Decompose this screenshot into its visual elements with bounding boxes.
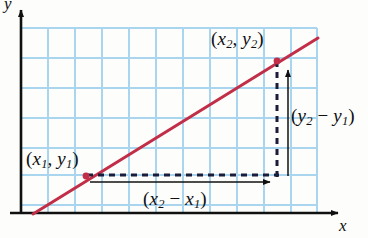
- x-var: x: [33, 148, 42, 169]
- label-rise-y2-minus-y1: (y2 − y1): [291, 105, 355, 129]
- label-point-x1-y1: (x1, y1): [26, 148, 79, 172]
- x-axis-label: x: [339, 216, 347, 236]
- paren-close: ): [200, 188, 207, 209]
- y-axis-label: y: [4, 0, 12, 14]
- comma: ,: [47, 148, 57, 169]
- paren-close: ): [72, 148, 79, 169]
- minus-operator: −: [312, 105, 333, 126]
- measurement-arrows: [90, 70, 288, 182]
- x-var: x: [218, 28, 227, 49]
- minus-operator: −: [164, 188, 185, 209]
- label-point-x2-y2: (x2, y2): [211, 28, 264, 52]
- comma: ,: [232, 28, 242, 49]
- slope-diagram-figure: (x2, y2) (x1, y1) (y2 − y1) (x2 − x1) x …: [0, 0, 368, 238]
- y-var: y: [57, 148, 66, 169]
- second-var: y: [333, 105, 342, 126]
- first-var: y: [298, 105, 307, 126]
- grid-lines: [21, 28, 317, 213]
- paren-close: ): [257, 28, 264, 49]
- point-x1y1: [83, 173, 90, 180]
- y-var: y: [242, 28, 251, 49]
- first-var: x: [150, 188, 159, 209]
- point-x2y2: [274, 58, 281, 65]
- second-var: x: [185, 188, 194, 209]
- label-run-x2-minus-x1: (x2 − x1): [143, 188, 207, 212]
- paren-close: ): [348, 105, 355, 126]
